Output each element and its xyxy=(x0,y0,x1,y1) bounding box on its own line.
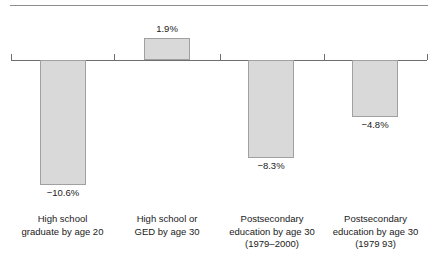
category-label-4-line-1: Postsecondary xyxy=(324,213,427,226)
plot-area: −10.6% 1.9% −8.3% −4.8% xyxy=(0,0,436,212)
axis-tick-3 xyxy=(324,54,325,60)
category-label-2-line-1: High school or xyxy=(114,213,220,226)
category-axis-labels: High school graduate by age 20 High scho… xyxy=(0,213,436,265)
category-label-3-line-3: (1979–2000) xyxy=(220,238,324,251)
bar-value-label-2: 1.9% xyxy=(129,23,205,34)
axis-tick-2 xyxy=(220,54,221,60)
category-label-3-line-2: education by age 30 xyxy=(220,226,324,239)
bar-postsecondary-education-1979-2000[interactable] xyxy=(248,60,294,158)
axis-tick-0 xyxy=(11,54,12,60)
category-label-2-line-2: GED by age 30 xyxy=(114,226,220,239)
category-label-4-line-2: education by age 30 xyxy=(324,226,427,239)
bar-postsecondary-education-1979-93[interactable] xyxy=(352,60,398,117)
category-label-3-line-1: Postsecondary xyxy=(220,213,324,226)
category-label-1-line-1: High school xyxy=(11,213,114,226)
category-label-4-line-3: (1979 93) xyxy=(324,238,427,251)
category-label-postsecondary-education-1979-2000: Postsecondary education by age 30 (1979–… xyxy=(220,213,324,251)
category-label-1-line-2: graduate by age 20 xyxy=(11,226,114,239)
bar-value-label-3: −8.3% xyxy=(233,160,309,171)
bar-value-label-1: −10.6% xyxy=(25,187,101,198)
bar-high-school-or-ged-by-age-30[interactable] xyxy=(144,38,190,60)
category-label-high-school-graduate-by-age-20: High school graduate by age 20 xyxy=(11,213,114,238)
category-label-high-school-or-ged-by-age-30: High school or GED by age 30 xyxy=(114,213,220,238)
axis-tick-1 xyxy=(114,54,115,60)
bar-chart: −10.6% 1.9% −8.3% −4.8% High school grad… xyxy=(0,0,436,265)
axis-tick-4 xyxy=(427,54,428,60)
bar-value-label-4: −4.8% xyxy=(337,119,413,130)
category-label-postsecondary-education-1979-93: Postsecondary education by age 30 (1979 … xyxy=(324,213,427,251)
bar-high-school-graduate-by-age-20[interactable] xyxy=(40,60,86,185)
